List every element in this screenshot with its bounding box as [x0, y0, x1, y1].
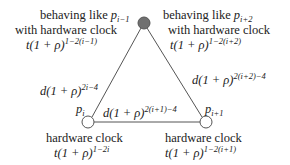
edge-exp: 2(i+1)−4 — [145, 104, 177, 114]
edge-right-label: d(1 + ρ)2(i+2)−4 — [192, 74, 266, 87]
text: behaving like — [40, 8, 111, 22]
text: with hardware clock — [168, 23, 270, 37]
formula-exp: 1−2(i+2) — [209, 36, 241, 46]
bottom-left-clock-formula: t(1 + ρ)1−2i — [54, 147, 109, 160]
bottom-right-clock-formula: t(1 + ρ)1−2(i+1) — [165, 147, 236, 160]
edge-left — [92, 28, 141, 117]
edge-base: d(1 + ρ) — [40, 84, 82, 98]
top-left-clock-formula: t(1 + ρ)1−2(i−1) — [26, 39, 97, 52]
formula-exp: 1−2(i+1) — [204, 144, 236, 154]
edge-base: d(1 + ρ) — [192, 73, 234, 87]
edge-bottom-label: d(1 + ρ)2(i+1)−4 — [103, 107, 177, 120]
edge-left-label: d(1 + ρ)2i−4 — [40, 85, 98, 98]
var-sub: i−1 — [117, 14, 129, 24]
bottom-left-hardware-label: hardware clock — [46, 132, 123, 145]
node-p-i-name: pi — [76, 103, 85, 116]
formula-base: t(1 + ρ) — [54, 146, 93, 160]
top-left-behaving-label: behaving like pi−1 — [40, 9, 129, 22]
edge-exp: 2i−4 — [82, 82, 99, 92]
node-top — [138, 17, 150, 29]
top-right-behaving-label: behaving like pi+2 — [163, 9, 252, 22]
edge-base: d(1 + ρ) — [103, 106, 145, 120]
text: behaving like — [163, 8, 234, 22]
formula-exp: 1−2i — [93, 144, 110, 154]
text: hardware clock — [46, 131, 123, 145]
formula-base: t(1 + ρ) — [165, 146, 204, 160]
text: with hardware clock — [15, 23, 117, 37]
formula-base: t(1 + ρ) — [26, 38, 65, 52]
formula-base: t(1 + ρ) — [170, 38, 209, 52]
formula-exp: 1−2(i−1) — [65, 36, 97, 46]
text: hardware clock — [165, 131, 242, 145]
node-p-i-plus-1-name: pi+1 — [205, 103, 224, 116]
name-sub: i+1 — [211, 108, 223, 118]
top-right-clock-formula: t(1 + ρ)1−2(i+2) — [170, 39, 241, 52]
edge-exp: 2(i+2)−4 — [234, 71, 266, 81]
name-sub: i — [82, 108, 84, 118]
